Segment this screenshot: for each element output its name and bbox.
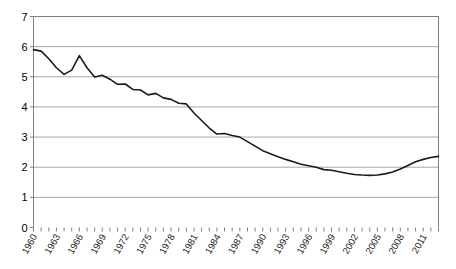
- y-tick-label: 4: [21, 101, 27, 113]
- y-tick-label: 6: [21, 41, 27, 53]
- y-tick-label: 1: [21, 191, 27, 203]
- y-tick-label: 2: [21, 161, 27, 173]
- y-tick-label: 7: [21, 11, 27, 23]
- y-tick-label: 3: [21, 131, 27, 143]
- chart-canvas: 01234567 1960196319661969197219751978198…: [0, 0, 456, 269]
- y-tick-label: 5: [21, 71, 27, 83]
- line-chart: 01234567 1960196319661969197219751978198…: [0, 0, 456, 269]
- y-tick-label: 0: [21, 222, 27, 234]
